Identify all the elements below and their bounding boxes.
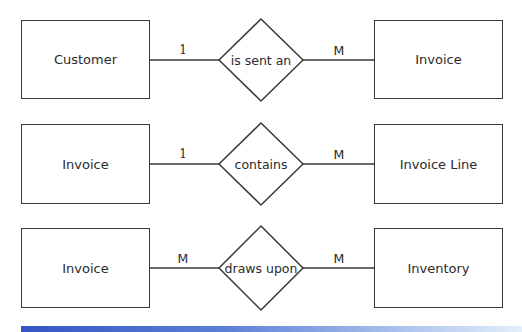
- cardinality-left: 1: [179, 147, 187, 161]
- entity-inventory: Inventory: [374, 228, 503, 308]
- cardinality-right: M: [334, 251, 345, 266]
- entity-label: Invoice: [62, 157, 108, 172]
- gradient-footer-bar: [21, 326, 522, 332]
- entity-label: Invoice: [62, 261, 108, 276]
- entity-invoice: Invoice: [374, 20, 503, 99]
- cardinality-left: 1: [179, 43, 187, 57]
- entity-label: Invoice: [415, 52, 461, 67]
- relationship-label: contains: [235, 157, 288, 172]
- cardinality-right: M: [334, 43, 345, 58]
- entity-invoice: Invoice: [21, 124, 150, 204]
- cardinality-right: M: [334, 147, 345, 162]
- entity-customer: Customer: [21, 20, 150, 99]
- entity-label: Inventory: [407, 261, 469, 276]
- entity-invoice-line: Invoice Line: [374, 124, 503, 204]
- relationship-label: draws upon: [225, 261, 298, 276]
- entity-invoice: Invoice: [21, 228, 150, 308]
- entity-label: Customer: [54, 52, 117, 67]
- entity-label: Invoice Line: [400, 157, 478, 172]
- cardinality-left: M: [178, 251, 189, 266]
- relationship-label: is sent an: [231, 53, 292, 68]
